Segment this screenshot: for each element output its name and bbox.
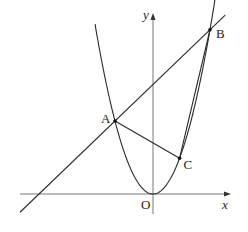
x-axis-arrow-icon xyxy=(224,192,231,197)
label-b: B xyxy=(216,26,225,41)
parabola-curve xyxy=(95,0,216,194)
label-origin: O xyxy=(141,197,150,212)
label-y-axis: y xyxy=(141,7,149,22)
line-ab xyxy=(20,15,225,212)
point-a xyxy=(113,119,117,123)
label-x-axis: x xyxy=(221,197,228,212)
label-c: C xyxy=(184,157,193,172)
point-b xyxy=(208,28,212,32)
parabola-diagram: A B C O x y xyxy=(0,0,248,232)
label-a: A xyxy=(101,111,111,126)
segment-bc xyxy=(180,30,210,158)
point-c xyxy=(178,156,182,160)
y-axis-arrow-icon xyxy=(151,13,156,20)
